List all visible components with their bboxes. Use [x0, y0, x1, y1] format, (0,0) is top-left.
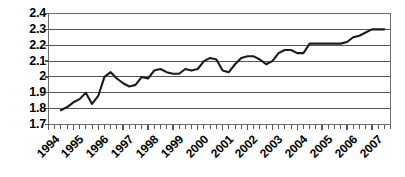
- x-axis-labels: 1994199519961997199819992000200120022003…: [0, 0, 405, 177]
- x-axis-tick-label: 2007: [352, 133, 385, 166]
- line-chart: 2.42.32.22.121.91.81.7 19941995199619971…: [0, 0, 405, 177]
